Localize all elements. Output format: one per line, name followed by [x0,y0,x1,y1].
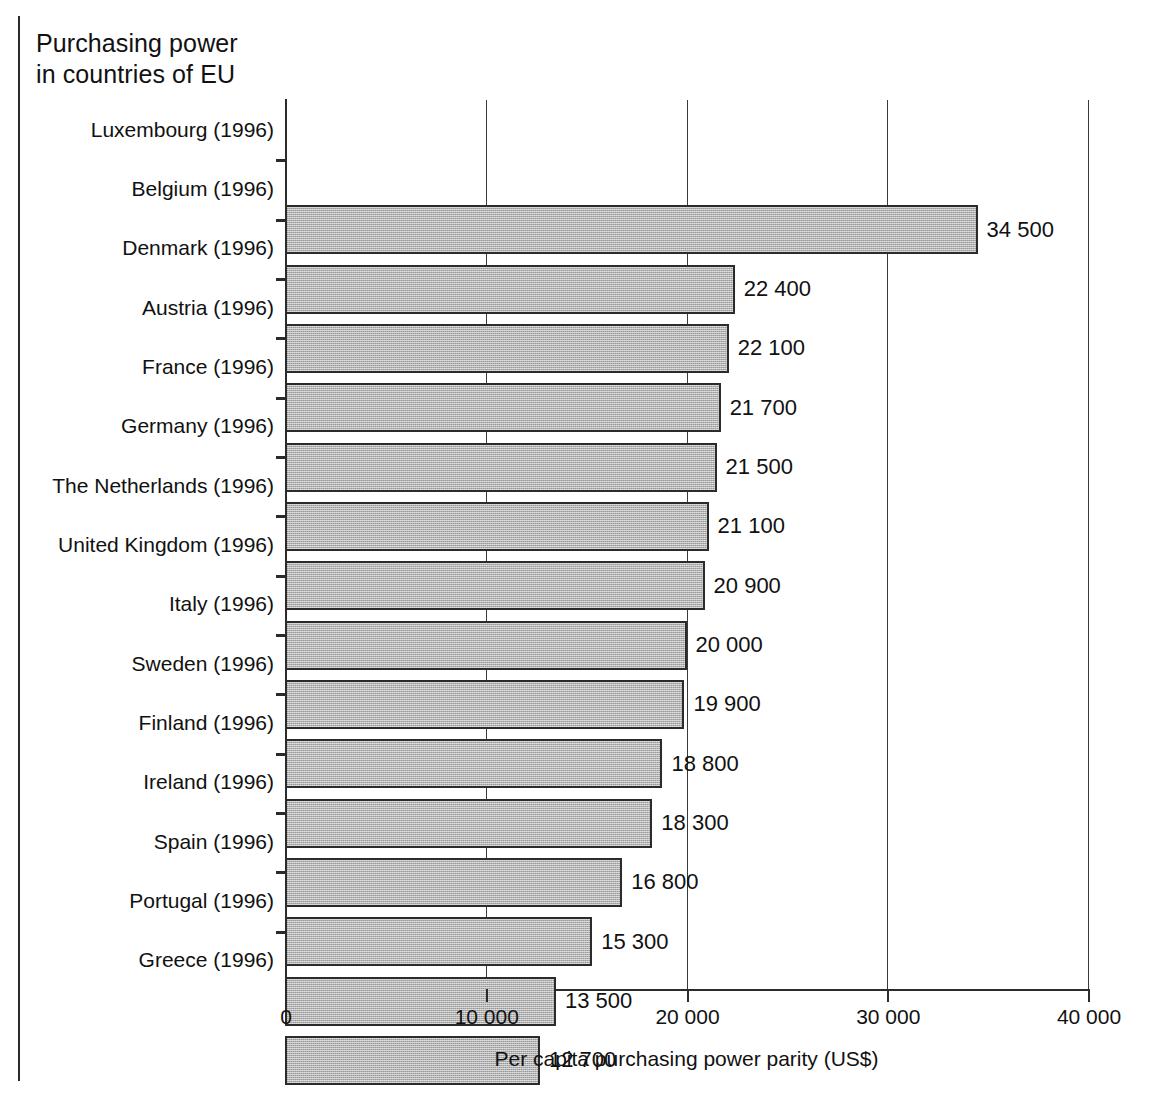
chart-title-line1: Purchasing power [36,29,238,57]
category-label: Italy (1996) [169,592,274,616]
y-tick [276,397,286,400]
category-label: United Kingdom (1996) [58,533,274,557]
y-tick [276,931,286,934]
y-tick [276,278,286,281]
bar [285,739,662,788]
plot-area: 34 50022 40022 10021 70021 50021 10020 9… [285,100,1088,990]
bar-row: 18 800 [285,739,1088,788]
bar-row: 18 300 [285,799,1088,848]
bar-row: 34 500 [285,205,1088,254]
bar-value-label: 22 100 [729,335,805,361]
category-label: The Netherlands (1996) [52,474,274,498]
bar-value-label: 22 400 [735,276,811,302]
bar-row: 22 400 [285,265,1088,314]
y-tick [276,515,286,518]
chart-title-line2: in countries of EU [36,60,235,88]
category-label: Finland (1996) [139,711,274,735]
x-tick-label: 20 000 [655,1005,719,1029]
category-label: Sweden (1996) [132,652,274,676]
category-label: Germany (1996) [121,414,274,438]
bar-value-label: 34 500 [978,217,1054,243]
bar-value-label: 13 500 [556,988,632,1014]
category-label: Ireland (1996) [143,770,274,794]
bar [285,205,978,254]
bar-value-label: 19 900 [684,691,760,717]
x-tick-label: 0 [280,1005,292,1029]
x-tick-40000 [1088,989,1090,1002]
y-tick [276,634,286,637]
y-tick [276,456,286,459]
bar-row: 20 900 [285,561,1088,610]
bar-row: 15 300 [285,917,1088,966]
bar-value-label: 18 800 [662,751,738,777]
category-label: Spain (1996) [154,830,274,854]
category-label: Denmark (1996) [122,236,274,260]
y-tick [276,812,286,815]
category-label: Greece (1996) [139,948,274,972]
bar-value-label: 20 000 [687,632,763,658]
bar [285,917,592,966]
category-label: Austria (1996) [142,296,274,320]
bar-value-label: 16 800 [622,869,698,895]
bar [285,680,684,729]
y-tick [276,159,286,162]
y-tick [276,575,286,578]
bar [285,383,721,432]
x-tick-20000 [687,989,689,1002]
y-tick [276,753,286,756]
bar-row: 16 800 [285,858,1088,907]
bar [285,858,622,907]
bar [285,324,729,373]
category-label: Luxembourg (1996) [91,118,274,142]
y-tick [276,871,286,874]
bar [285,621,687,670]
gridline-40000 [1088,100,1089,990]
chart-title: Purchasing powerin countries of EU [36,28,238,90]
bar-row: 22 100 [285,324,1088,373]
bar-row: 19 900 [285,680,1088,729]
bar [285,502,709,551]
bar-value-label: 21 100 [709,513,785,539]
bar-row: 21 700 [285,383,1088,432]
chart-page: Purchasing powerin countries of EU 34 50… [0,0,1161,1105]
bar [285,265,735,314]
bar [285,443,717,492]
bar-value-label: 21 700 [721,395,797,421]
y-tick [276,337,286,340]
category-label: Portugal (1996) [129,889,274,913]
bar-value-label: 18 300 [652,810,728,836]
x-tick-label: 10 000 [455,1005,519,1029]
x-tick-10000 [486,989,488,1002]
category-label: Belgium (1996) [132,177,274,201]
x-tick-0 [285,989,287,1002]
bar-value-label: 20 900 [705,573,781,599]
x-tick-label: 30 000 [856,1005,920,1029]
bar-row: 21 500 [285,443,1088,492]
bar-value-label: 15 300 [592,929,668,955]
bar-row: 20 000 [285,621,1088,670]
x-tick-30000 [887,989,889,1002]
x-tick-label: 40 000 [1057,1005,1121,1029]
bar [285,561,705,610]
bar [285,799,652,848]
x-axis-title: Per capita purchasing power parity (US$) [285,1047,1088,1071]
y-tick [276,693,286,696]
category-label: France (1996) [142,355,274,379]
y-tick [276,219,286,222]
bar-value-label: 21 500 [717,454,793,480]
bar-row: 21 100 [285,502,1088,551]
page-left-rule [18,16,20,1081]
